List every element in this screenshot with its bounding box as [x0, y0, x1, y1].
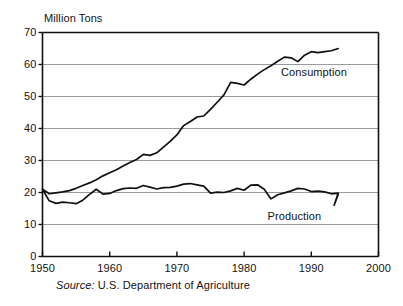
y-axis-tick-label: 10: [15, 218, 37, 230]
x-axis-tick-label: 1990: [291, 262, 331, 274]
y-axis-tick-label: 70: [15, 26, 37, 38]
x-axis-tick-label: 1960: [90, 262, 130, 274]
source-text: U.S. Department of Agriculture: [95, 279, 250, 291]
chart-plot-area: [0, 0, 403, 306]
chart-figure: Million Tons 010203040506070 19501960197…: [0, 0, 403, 306]
x-axis-tick-label: 1980: [224, 262, 264, 274]
x-axis-tick-label: 1970: [157, 262, 197, 274]
x-axis-tick-label: 1950: [23, 262, 63, 274]
x-axis-tick-label: 2000: [359, 262, 399, 274]
y-axis-tick-label: 30: [15, 154, 37, 166]
source-label: Source:: [56, 279, 95, 291]
y-axis-tick-label: 60: [15, 58, 37, 70]
gridlines: [43, 65, 379, 225]
series-label-production: Production: [268, 210, 322, 222]
source-note: Source: U.S. Department of Agriculture: [56, 279, 250, 291]
y-axis-tick-label: 0: [15, 250, 37, 262]
y-axis-tick-label: 50: [15, 90, 37, 102]
y-axis-tick-label: 40: [15, 122, 37, 134]
series-label-consumption: Consumption: [281, 66, 347, 78]
y-axis-tick-label: 20: [15, 186, 37, 198]
